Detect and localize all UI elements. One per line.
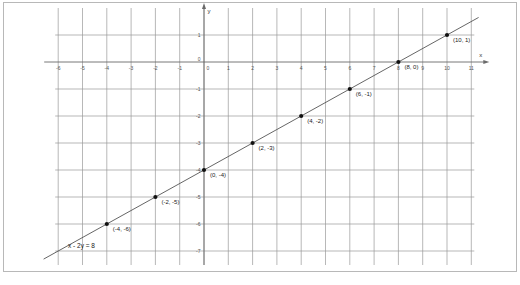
plotted-line: [44, 17, 479, 259]
x-tick-7: 7: [373, 65, 376, 71]
y-tick--6: -6: [196, 221, 201, 227]
y-tick-1: 1: [198, 32, 201, 38]
data-point-label-8-0: (8, 0): [404, 64, 418, 70]
data-point-labels: (-4, -6)(-2, -5)(0, -4)(2, -3)(4, -2)(6,…: [113, 37, 471, 232]
x-tick-6: 6: [348, 65, 351, 71]
x-tick-8: 8: [397, 65, 400, 71]
equation-label: x - 2y = 8: [68, 242, 95, 250]
y-tick--3: -3: [196, 140, 201, 146]
x-tick-9: 9: [421, 65, 424, 71]
y-tick--1: -1: [196, 86, 201, 92]
data-point-4--2: [299, 114, 303, 118]
x-tick-2: 2: [251, 65, 254, 71]
data-point-label-0--4: (0, -4): [210, 172, 226, 178]
y-tick--2: -2: [196, 113, 201, 119]
x-axis-name: x: [479, 52, 482, 58]
graph-figure: -6-5-4-3-2-101234567891011 10-1-2-3-4-5-…: [0, 0, 520, 285]
x-tick-11: 11: [469, 65, 474, 71]
data-point-label-10-1: (10, 1): [453, 37, 470, 43]
x-tick-4: 4: [300, 65, 303, 71]
x-tick--3: -3: [129, 65, 134, 71]
data-point-label-4--2: (4, -2): [307, 118, 323, 124]
x-tick-1: 1: [227, 65, 230, 71]
data-point-6--1: [348, 87, 352, 91]
x-tick--5: -5: [80, 65, 85, 71]
x-tick-5: 5: [324, 65, 327, 71]
data-point--2--5: [153, 195, 157, 199]
data-point-label-2--3: (2, -3): [259, 145, 275, 151]
x-tick--2: -2: [153, 65, 158, 71]
y-tick--7: -7: [196, 248, 201, 254]
data-point-label--4--6: (-4, -6): [113, 226, 131, 232]
x-tick--1: -1: [177, 65, 182, 71]
y-axis-name: y: [208, 8, 211, 14]
data-point-10-1: [445, 33, 449, 37]
y-tick-0: 0: [198, 56, 201, 62]
x-tick--6: -6: [56, 65, 61, 71]
coordinate-plane: -6-5-4-3-2-101234567891011 10-1-2-3-4-5-…: [0, 0, 520, 285]
y-axis-arrow: [202, 3, 206, 9]
x-tick-3: 3: [276, 65, 279, 71]
y-tick--5: -5: [196, 194, 201, 200]
axis-name-labels: xy: [208, 8, 483, 58]
x-tick-10: 10: [444, 65, 450, 71]
y-axis-tick-labels: 10-1-2-3-4-5-6-7: [196, 32, 201, 254]
data-point-8-0: [396, 60, 400, 64]
data-point-label--2--5: (-2, -5): [161, 199, 179, 205]
data-point-label-6--1: (6, -1): [356, 91, 372, 97]
data-point-0--4: [202, 168, 206, 172]
line-series: [44, 17, 479, 259]
x-tick-0: 0: [207, 65, 210, 71]
data-point--4--6: [105, 222, 109, 226]
x-axis-arrow: [483, 60, 489, 64]
x-tick--4: -4: [105, 65, 110, 71]
data-point-2--3: [251, 141, 255, 145]
